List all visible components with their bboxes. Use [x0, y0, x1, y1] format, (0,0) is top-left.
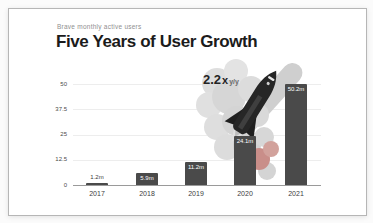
x-tick-label-2019: 2019: [176, 190, 216, 197]
bar-value-label-2020: 24.1m: [234, 138, 256, 145]
growth-period: y/y: [229, 78, 239, 85]
x-tick-label-2018: 2018: [127, 190, 167, 197]
slide-card: Brave monthly active users Five Years of…: [8, 8, 367, 216]
x-axis-line: [73, 185, 321, 186]
x-tick-label-2017: 2017: [77, 190, 117, 197]
growth-multiplier: 2.2: [203, 72, 221, 87]
y-tick-label-25: 25: [11, 131, 67, 138]
bar-value-label-2021: 50.2m: [285, 86, 307, 93]
y-tick-label-12.5: 12.5: [11, 156, 67, 163]
bar-2021: [285, 84, 307, 185]
x-tick-label-2021: 2021: [276, 190, 316, 197]
bar-value-label-2017: 1.2m: [86, 174, 108, 181]
bar-value-label-2019: 11.2m: [185, 164, 207, 171]
x-tick-label-2020: 2020: [225, 190, 265, 197]
y-tick-label-37.5: 37.5: [11, 106, 67, 113]
y-tick-label-0: 0: [11, 182, 67, 189]
y-tick-label-50: 50: [11, 81, 67, 88]
bar-2017: [86, 183, 108, 186]
times-symbol: x: [222, 74, 228, 86]
growth-annotation: 2.2xy/y: [203, 70, 239, 88]
bar-value-label-2018: 5.9m: [136, 175, 158, 182]
plot-area: 2.2xy/y 012.52537.5501.2m20175.9m201811.…: [9, 9, 366, 215]
